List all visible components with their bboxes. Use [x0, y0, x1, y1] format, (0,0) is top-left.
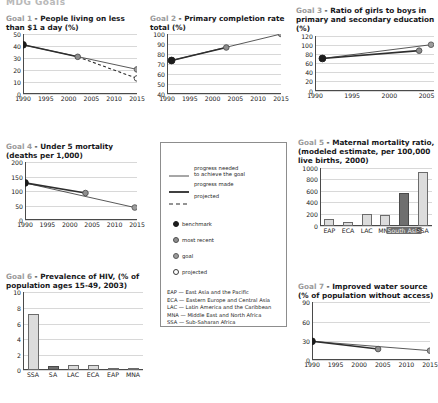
chart-title-goal1: Goal 1 - People living on less than $1 a… — [6, 14, 143, 32]
series-line — [25, 183, 135, 208]
data-point-most-recent — [83, 191, 89, 197]
gridline — [23, 355, 143, 356]
y-axis-tick-label: 1000 — [302, 164, 318, 171]
x-axis-tick-label: LAC — [67, 371, 79, 378]
legend-marker-most-recent: most recent — [169, 237, 281, 243]
goal-number-label: Goal 2 — [150, 14, 176, 23]
chart-title-goal6: Goal 6 - Prevalence of HIV, (% of popula… — [6, 272, 151, 290]
x-axis-tick-label: SA — [49, 371, 57, 378]
goal-number-label: Goal 5 — [298, 138, 324, 147]
y-axis-tick-label: 8 — [17, 305, 21, 312]
plot-area-goal5: 02004006008001000EAPECALACMNASouth AsiaS… — [320, 168, 432, 226]
abbreviation-key: EAP — East Asia and the Pacific ECA — Ea… — [167, 289, 271, 327]
x-axis-tick-label: 2005 — [84, 95, 100, 102]
x-axis-tick-label: 2000 — [61, 95, 77, 102]
y-axis-tick-label: 60 — [302, 318, 310, 325]
x-axis-tick-label: 2015 — [422, 361, 438, 368]
abbr-eap: EAP — East Asia and the Pacific — [167, 289, 271, 297]
y-axis-tick-label: 600 — [306, 187, 318, 194]
x-axis-tick-label: MNA — [126, 371, 140, 378]
x-axis-tick-label: 2000 — [205, 95, 221, 102]
y-axis-tick-label: 150 — [11, 173, 23, 180]
gridline — [23, 324, 143, 325]
y-axis-tick-label: 0 — [17, 367, 21, 374]
data-point-goal — [132, 205, 137, 211]
y-axis-tick-label: 60 — [157, 71, 165, 78]
chart-title-goal2: Goal 2 - Primary completion rate total (… — [150, 14, 287, 32]
y-axis-tick-label: 4 — [17, 336, 21, 343]
legend-line-projected: projected — [169, 193, 281, 201]
series-line — [312, 342, 378, 350]
y-axis-tick-label: 20 — [13, 67, 21, 74]
data-point-goal — [428, 42, 434, 48]
plot-area-goal2: 405060708090100199019952000200520102015 — [167, 34, 281, 94]
bar-mna — [128, 368, 139, 370]
data-point-most-recent — [223, 45, 229, 51]
cut-page-header: MDG Goals — [6, 0, 66, 7]
bar-ssa — [418, 172, 428, 225]
x-axis-tick-label: 2000 — [62, 221, 78, 228]
gridline — [315, 91, 434, 92]
x-axis-tick-label: 1995 — [182, 95, 198, 102]
x-axis-tick-label: 2010 — [250, 95, 266, 102]
legend-label: projected — [194, 193, 219, 199]
y-axis-tick-label: 200 — [11, 159, 23, 166]
bar-eap — [324, 219, 334, 226]
plot-area-goal6: 0246810SSASALACECAEAPMNA — [23, 292, 143, 370]
series-layer — [25, 162, 137, 220]
y-axis-tick-label: 40 — [305, 69, 313, 76]
legend-label: goal — [182, 253, 193, 259]
solid-thin-line-icon — [169, 165, 191, 173]
bar-lac — [362, 214, 372, 225]
y-axis-tick-label: 100 — [153, 31, 165, 38]
x-axis-tick-label: 1995 — [328, 361, 344, 368]
gridline — [320, 168, 432, 169]
legend-label: most recent — [182, 237, 214, 243]
x-axis-tick-label: SSA — [417, 227, 429, 234]
legend-marker-projected: projected — [169, 269, 281, 275]
bar-mna — [380, 215, 390, 226]
data-point-goal — [134, 67, 137, 73]
x-axis-tick-label: 2010 — [106, 95, 122, 102]
legend-marker-benchmark: benchmark — [169, 221, 281, 227]
x-axis-tick-label: 2010 — [399, 361, 415, 368]
chart-panel-goal2: Goal 2 - Primary completion rate total (… — [150, 14, 287, 119]
y-axis-tick-label: 80 — [305, 50, 313, 57]
series-line — [322, 50, 419, 58]
y-axis-tick-label: 80 — [157, 51, 165, 58]
data-point-benchmark — [168, 58, 175, 65]
x-axis-tick-label: 2015 — [273, 95, 289, 102]
y-axis-tick-label: 90 — [157, 41, 165, 48]
x-axis-tick-label: 2015 — [129, 95, 145, 102]
legend-label: progress made — [194, 181, 234, 187]
x-axis-tick-label: 1990 — [17, 221, 33, 228]
y-axis — [320, 168, 321, 226]
x-axis-tick-label: 1995 — [38, 95, 54, 102]
chart-title-goal3: Goal 3 - Ratio of girls to boys in prima… — [296, 6, 436, 34]
data-point-most-recent — [75, 54, 81, 60]
y-axis-tick-label: 10 — [13, 79, 21, 86]
data-point-most-recent — [416, 47, 422, 53]
chart-panel-goal5: Goal 5 - Maternal mortality ratio, (mode… — [298, 138, 436, 258]
legend-label: projected — [182, 269, 207, 275]
goal-number-label: Goal 1 — [6, 14, 32, 23]
plot-area-goal7: 0306090199019952000200520102015 — [312, 302, 430, 360]
data-point-benchmark — [25, 180, 28, 187]
gridline — [23, 292, 143, 293]
plot-area-goal1: 01020304050199019952000200520102015 — [23, 34, 137, 94]
y-axis-tick-label: 60 — [305, 60, 313, 67]
gridline — [320, 202, 432, 203]
dashed-line-icon — [169, 193, 191, 201]
legend-box: progress needed to achieve the goal prog… — [160, 142, 287, 327]
legend-line-progress-made: progress made — [169, 181, 281, 189]
y-axis-tick-label: 90 — [302, 299, 310, 306]
y-axis-tick-label: 6 — [17, 320, 21, 327]
chart-title-goal5: Goal 5 - Maternal mortality ratio, (mode… — [298, 138, 436, 166]
data-point-benchmark — [312, 338, 315, 345]
mdg-dashboard: MDG Goals Goal 1 - People living on less… — [0, 0, 438, 403]
x-axis-tick-label: EAP — [107, 371, 119, 378]
y-axis-tick-label: 800 — [306, 176, 318, 183]
goal-number-label: Goal 6 — [6, 272, 32, 281]
chart-panel-goal7: Goal 7 - Improved water source (% of pop… — [298, 282, 436, 397]
x-axis-tick-label: 2005 — [228, 95, 244, 102]
